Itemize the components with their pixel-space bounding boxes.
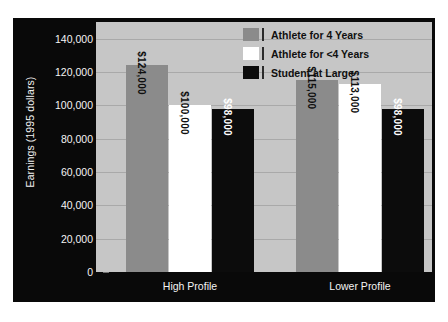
chart-frame: Earnings (1995 dollars) 020,00040,00060,… <box>13 18 435 302</box>
y-axis-ticks: 020,00040,00060,00080,000100,000120,0001… <box>25 18 93 302</box>
bar[interactable]: $124,000 <box>126 65 168 272</box>
plot-area: $124,000$100,000$98,000$115,000$113,000$… <box>96 22 432 272</box>
bar[interactable]: $113,000 <box>339 84 381 272</box>
bar-value-label: $100,000 <box>179 92 190 135</box>
legend-tick-icon <box>262 66 264 79</box>
legend-swatch-icon <box>243 28 259 41</box>
bar[interactable]: $98,000 <box>212 109 254 272</box>
legend-swatch-icon <box>243 66 259 79</box>
y-axis-tick-label: 120,000 <box>31 66 93 78</box>
y-axis-tick-label: 40,000 <box>31 199 93 211</box>
chart-legend: Athlete for 4 YearsAthlete for <4 YearsS… <box>243 25 428 82</box>
legend-tick-icon <box>262 47 264 60</box>
legend-item[interactable]: Athlete for 4 Years <box>243 25 428 44</box>
legend-tick-icon <box>262 28 264 41</box>
legend-item[interactable]: Student at Large <box>243 63 428 82</box>
legend-label: Student at Large <box>271 67 354 79</box>
y-axis-tick-label: 80,000 <box>31 133 93 145</box>
y-axis-tick-label: 20,000 <box>31 233 93 245</box>
bar[interactable]: $115,000 <box>296 80 338 272</box>
x-axis-category-label: High Profile <box>163 280 217 292</box>
bar-value-label: $124,000 <box>136 52 147 95</box>
bar-value-label: $98,000 <box>392 98 403 136</box>
chart-screenshot: Earnings (1995 dollars) 020,00040,00060,… <box>0 0 448 322</box>
legend-item[interactable]: Athlete for <4 Years <box>243 44 428 63</box>
bar[interactable]: $98,000 <box>382 109 424 272</box>
bar[interactable]: $100,000 <box>169 105 211 272</box>
legend-label: Athlete for <4 Years <box>271 48 369 60</box>
y-axis-tick-label: 100,000 <box>31 99 93 111</box>
y-axis-tick-label: 60,000 <box>31 166 93 178</box>
y-axis-tick-label: 0 <box>31 266 93 278</box>
x-axis-category-label: Lower Profile <box>329 280 390 292</box>
bar-value-label: $98,000 <box>222 98 233 136</box>
legend-label: Athlete for 4 Years <box>271 29 363 41</box>
legend-swatch-icon <box>243 47 259 60</box>
y-axis-tick-label: 140,000 <box>31 33 93 45</box>
